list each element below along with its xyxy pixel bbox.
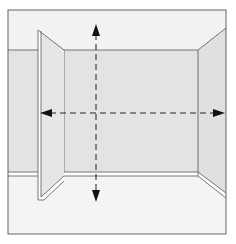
room-diagram: Room interior line drawing with a protru… bbox=[0, 0, 236, 244]
room-drawing bbox=[0, 0, 236, 244]
